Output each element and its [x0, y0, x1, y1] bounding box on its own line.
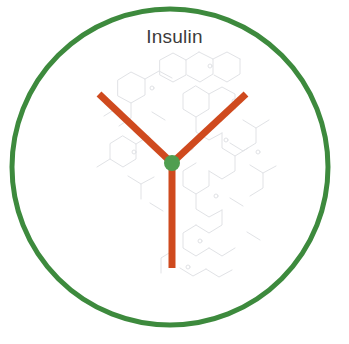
- antibody-y-symbol: [99, 94, 246, 268]
- antibody-hub-dot: [164, 155, 180, 171]
- page-title: Insulin: [0, 26, 349, 48]
- figure-canvas: [0, 0, 349, 344]
- molecular-structure-watermark: [97, 52, 276, 277]
- insulin-antibody-figure: Insulin: [0, 0, 349, 344]
